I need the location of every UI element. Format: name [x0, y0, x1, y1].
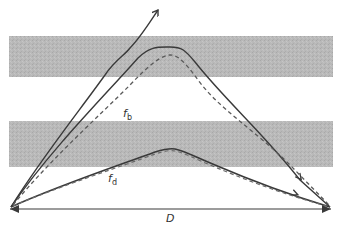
label-distance: D	[166, 212, 174, 225]
label-fd: fd	[108, 172, 117, 187]
high-trajectory-arrow	[292, 168, 300, 178]
label-fb-sub: b	[127, 113, 132, 122]
trajectory-diagram: fb fd D	[0, 0, 339, 235]
diagram-canvas	[0, 0, 339, 235]
upper-band	[9, 36, 333, 77]
label-fd-sub: d	[112, 178, 117, 187]
label-fb: fb	[123, 107, 132, 122]
